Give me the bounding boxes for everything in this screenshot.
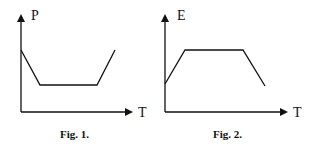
fig2-x-label: T [293,105,302,120]
diagram-canvas: P T Fig. 1. E T Fig. 2. [0,0,316,147]
fig2-y-label: E [177,8,186,23]
fig1-y-label: P [31,8,39,23]
fig2-curve [165,50,265,86]
figure-2: E T Fig. 2. [165,8,302,140]
fig2-caption: Fig. 2. [213,128,242,140]
fig1-curve [21,50,115,85]
fig1-caption: Fig. 1. [60,128,89,140]
fig1-x-label: T [138,105,147,120]
figure-1: P T Fig. 1. [21,8,147,140]
